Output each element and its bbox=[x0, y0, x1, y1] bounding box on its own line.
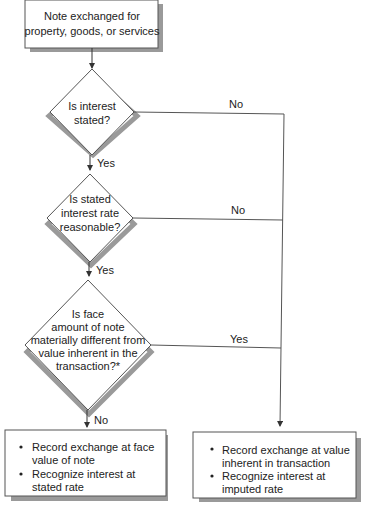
decision3-node: Is face amount of note materially differ… bbox=[25, 280, 151, 414]
outcome-right-bullet2-line1: Recognize interest at bbox=[222, 470, 325, 482]
decision2-line-2: interest rate bbox=[61, 207, 119, 219]
start-node: Note exchanged for property, goods, or s… bbox=[25, 0, 163, 52]
bullet-icon bbox=[210, 447, 213, 450]
edge-decision2-no bbox=[133, 218, 283, 220]
decision1-node: Is interest stated? bbox=[49, 69, 137, 155]
decision3-line-1: Is face bbox=[72, 308, 104, 320]
decision2-line-1: Is stated bbox=[69, 193, 111, 205]
decision3-line-4: value inherent in the bbox=[38, 347, 137, 359]
start-line-1: Note exchanged for bbox=[44, 10, 140, 22]
outcome-left-bullet1-line2: value of note bbox=[32, 454, 95, 466]
decision3-line-5: transaction?* bbox=[56, 360, 121, 372]
decision1-yes-label: Yes bbox=[97, 157, 115, 169]
outcome-right-bullet2-line2: imputed rate bbox=[222, 483, 283, 495]
decision3-no-label: No bbox=[94, 414, 108, 426]
decision1-no-label: No bbox=[229, 98, 243, 110]
decision2-yes-label: Yes bbox=[96, 264, 114, 276]
decision2-no-label: No bbox=[231, 204, 245, 216]
outcome-left-bullet2-line2: stated rate bbox=[32, 481, 84, 493]
edge-decision1-no bbox=[134, 112, 284, 114]
decision2-node: Is stated interest rate reasonable? bbox=[47, 174, 134, 265]
bullet-icon bbox=[19, 472, 22, 475]
bullet-icon bbox=[19, 445, 22, 448]
edge-decision3-yes bbox=[151, 345, 281, 348]
right-trunk-line bbox=[280, 114, 284, 426]
outcome-left-bullet1-line1: Record exchange at face bbox=[32, 441, 154, 453]
flowchart: Note exchanged for property, goods, or s… bbox=[0, 0, 370, 513]
outcome-right-bullet1-line1: Record exchange at value bbox=[222, 444, 350, 456]
bullet-icon bbox=[210, 474, 213, 477]
outcome-left-node: Record exchange at face value of note Re… bbox=[5, 430, 168, 501]
start-line-2: property, goods, or services bbox=[25, 25, 160, 37]
outcome-right-bullet1-line2: inherent in transaction bbox=[222, 457, 330, 469]
decision2-line-3: reasonable? bbox=[60, 221, 121, 233]
outcome-right-node: Record exchange at value inherent in tra… bbox=[193, 432, 361, 502]
decision3-yes-label: Yes bbox=[230, 333, 248, 345]
decision1-line-1: Is interest bbox=[68, 100, 116, 112]
decision1-line-2: stated? bbox=[74, 114, 110, 126]
outcome-left-bullet2-line1: Recognize interest at bbox=[32, 468, 135, 480]
decision3-line-3: materially different from bbox=[31, 334, 146, 346]
decision3-line-2: amount of note bbox=[51, 321, 124, 333]
